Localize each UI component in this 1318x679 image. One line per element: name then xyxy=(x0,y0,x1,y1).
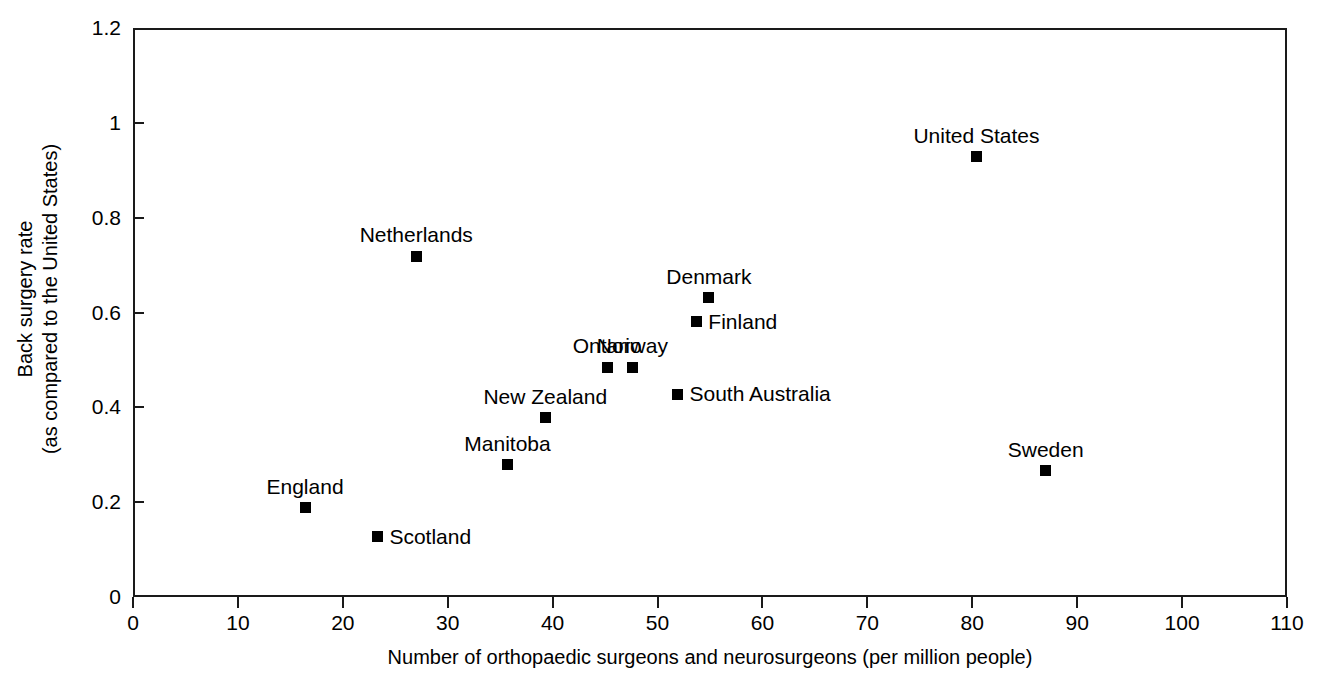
x-tick xyxy=(447,597,449,608)
data-point-marker[interactable] xyxy=(372,531,383,542)
y-axis-title-line-1: Back surgery rate xyxy=(13,221,38,378)
x-tick xyxy=(657,597,659,608)
data-point-label: Denmark xyxy=(666,265,751,289)
x-tick-label: 80 xyxy=(932,610,1012,635)
y-axis-title: Back surgery rate (as compared to the Un… xyxy=(8,0,68,599)
x-tick-label: 20 xyxy=(303,610,383,635)
x-tick-label: 30 xyxy=(408,610,488,635)
x-tick xyxy=(1286,597,1288,608)
x-tick-label: 40 xyxy=(513,610,593,635)
data-point-marker[interactable] xyxy=(540,412,551,423)
data-point-marker[interactable] xyxy=(672,389,683,400)
x-tick-label: 0 xyxy=(93,610,173,635)
x-tick-label: 50 xyxy=(618,610,698,635)
y-tick xyxy=(133,501,144,503)
data-point-marker[interactable] xyxy=(627,362,638,373)
y-tick xyxy=(133,312,144,314)
data-point-label: South Australia xyxy=(689,382,830,406)
data-point-marker[interactable] xyxy=(502,459,513,470)
x-tick-label: 110 xyxy=(1247,610,1318,635)
data-point-label: United States xyxy=(913,124,1039,148)
data-point-marker[interactable] xyxy=(300,502,311,513)
data-point-marker[interactable] xyxy=(703,292,714,303)
y-tick xyxy=(133,122,144,124)
data-point-marker[interactable] xyxy=(691,316,702,327)
x-tick xyxy=(132,597,134,608)
data-point-label: Manitoba xyxy=(464,432,550,456)
x-tick xyxy=(761,597,763,608)
data-point-label: New Zealand xyxy=(483,385,607,409)
x-tick xyxy=(342,597,344,608)
data-point-label: Sweden xyxy=(1008,438,1084,462)
data-point-marker[interactable] xyxy=(411,251,422,262)
data-point-label: England xyxy=(267,475,344,499)
x-tick-label: 90 xyxy=(1037,610,1117,635)
y-axis-title-line-2: (as compared to the United States) xyxy=(38,144,63,454)
data-point-label: Norway xyxy=(597,334,668,358)
x-tick xyxy=(552,597,554,608)
x-tick-label: 60 xyxy=(722,610,802,635)
x-tick-label: 70 xyxy=(827,610,907,635)
y-tick xyxy=(133,406,144,408)
x-tick xyxy=(866,597,868,608)
x-tick-label: 100 xyxy=(1142,610,1222,635)
x-tick xyxy=(1181,597,1183,608)
x-tick-label: 10 xyxy=(198,610,278,635)
x-tick xyxy=(971,597,973,608)
data-point-label: Netherlands xyxy=(360,223,473,247)
y-tick xyxy=(133,217,144,219)
data-point-label: Scotland xyxy=(389,525,471,549)
data-point-marker[interactable] xyxy=(602,362,613,373)
x-axis-title: Number of orthopaedic surgeons and neuro… xyxy=(133,645,1287,669)
data-point-label: Finland xyxy=(708,310,777,334)
x-tick xyxy=(237,597,239,608)
data-point-marker[interactable] xyxy=(971,151,982,162)
data-point-marker[interactable] xyxy=(1040,465,1051,476)
scatter-chart-figure: 0102030405060708090100110 00.20.40.60.81… xyxy=(0,0,1318,679)
x-tick xyxy=(1076,597,1078,608)
